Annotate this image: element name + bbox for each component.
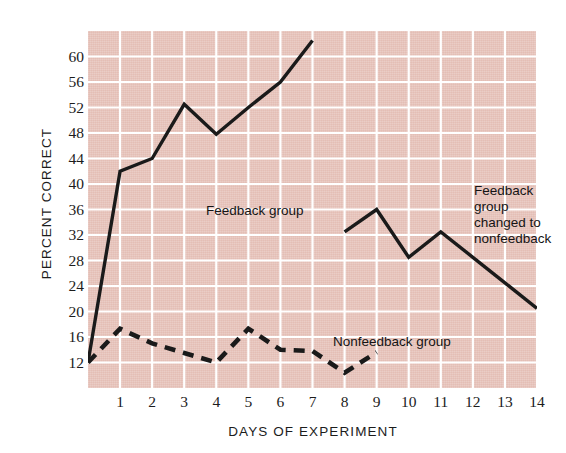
x-tick-label: 4 [212, 394, 220, 410]
series-line-feedback-group [88, 41, 313, 363]
annotation-nonfeedback-group: Nonfeedback group [333, 334, 451, 350]
y-axis-tick-labels: 12162024283236404448525660 [46, 31, 84, 388]
x-tick-label: 11 [433, 394, 448, 410]
y-tick-label: 20 [50, 304, 84, 320]
x-tick-label: 10 [401, 394, 417, 410]
y-tick-label: 56 [50, 74, 84, 90]
y-tick-label: 12 [50, 355, 84, 371]
x-tick-label: 9 [373, 394, 381, 410]
x-tick-label: 3 [180, 394, 188, 410]
y-tick-label: 28 [50, 253, 84, 269]
plot-area: Feedback group Nonfeedback group Feedbac… [88, 31, 537, 388]
data-series-layer [88, 31, 537, 388]
x-tick-label: 2 [148, 394, 156, 410]
x-tick-label: 13 [497, 394, 513, 410]
x-tick-label: 7 [309, 394, 317, 410]
y-tick-label: 16 [50, 329, 84, 345]
x-tick-label: 6 [277, 394, 285, 410]
x-axis-title: DAYS OF EXPERIMENT [88, 424, 538, 439]
y-tick-label: 48 [50, 125, 84, 141]
chart-figure: PERCENT CORRECT 121620242832364044485256… [0, 0, 566, 453]
y-tick-label: 24 [50, 278, 84, 294]
y-tick-label: 44 [50, 151, 84, 167]
x-tick-label: 12 [465, 394, 481, 410]
annotation-feedback-group: Feedback group [206, 203, 304, 219]
y-tick-label: 52 [50, 100, 84, 116]
x-tick-label: 5 [244, 394, 252, 410]
annotation-feedback-changed-to-nonfeedback: Feedback group changed to nonfeedback [474, 183, 551, 247]
y-tick-label: 40 [50, 176, 84, 192]
x-tick-label: 14 [529, 394, 545, 410]
x-tick-label: 1 [116, 394, 124, 410]
y-tick-label: 36 [50, 202, 84, 218]
y-tick-label: 32 [50, 227, 84, 243]
x-tick-label: 8 [341, 394, 349, 410]
y-tick-label: 60 [50, 49, 84, 65]
x-axis-tick-labels: 1234567891011121314 [88, 394, 537, 416]
